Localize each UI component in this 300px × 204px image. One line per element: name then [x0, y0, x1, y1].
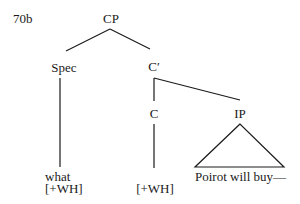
edge-cp-cbar [110, 29, 150, 49]
node-spec: Spec [51, 61, 76, 74]
ip-triangle [195, 124, 284, 167]
node-c-bar: C′ [148, 60, 160, 73]
leaf-ip-content: Poirot will buy— [195, 170, 286, 183]
leaf-c-feature: [+WH] [136, 182, 174, 195]
edge-cp-spec [66, 29, 110, 51]
leaf-spec-feature: [+WH] [45, 182, 83, 195]
node-ip: IP [234, 107, 246, 120]
edge-cbar-ip [154, 78, 240, 100]
node-cp: CP [103, 12, 119, 25]
example-number: 70b [13, 12, 33, 25]
node-c: C [150, 107, 159, 120]
